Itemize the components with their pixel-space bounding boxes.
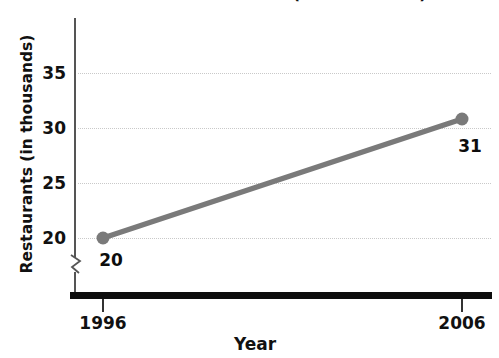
series-line-segment — [103, 119, 462, 238]
data-series — [0, 0, 499, 358]
x-axis-title: Year — [175, 334, 335, 354]
data-label-1996: 20 — [76, 252, 146, 269]
data-point-1996 — [97, 232, 110, 245]
data-point-2006 — [456, 113, 469, 126]
data-label-2006: 31 — [435, 138, 499, 155]
line-chart-figure: Number of Restaurants (in thousands) Res… — [0, 0, 499, 358]
